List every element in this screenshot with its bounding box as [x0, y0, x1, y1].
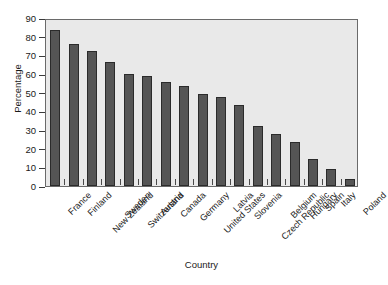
x-axis-tick	[322, 179, 323, 185]
plot-area	[45, 19, 358, 187]
x-axis-tick	[341, 179, 342, 185]
y-axis-tick-label: 40	[0, 107, 36, 117]
bar	[253, 126, 263, 186]
bar	[271, 134, 281, 186]
bar	[142, 76, 152, 186]
y-axis-tick-label: 10	[0, 163, 36, 173]
y-axis-tick-label: 30	[0, 126, 36, 136]
x-axis-tick	[304, 179, 305, 185]
y-axis-tick-label: 80	[0, 33, 36, 43]
x-axis-tick	[193, 179, 194, 185]
y-axis-tick-label: 70	[0, 51, 36, 61]
bar	[179, 86, 189, 186]
bar	[345, 179, 355, 186]
x-axis-title: Country	[45, 259, 358, 270]
x-axis-tick	[285, 179, 286, 185]
bar	[216, 97, 226, 186]
x-axis-tick	[230, 179, 231, 185]
y-axis-tick-label: 20	[0, 145, 36, 155]
x-axis-tick	[64, 179, 65, 185]
x-axis-label-wrapper: Sweden	[123, 190, 153, 220]
x-axis-tick	[120, 179, 121, 185]
bar	[326, 169, 336, 186]
x-axis-tick-label: Sweden	[123, 190, 153, 220]
x-axis-tick	[156, 179, 157, 185]
x-axis-label-wrapper: Poland	[361, 190, 388, 217]
x-axis-tick	[101, 179, 102, 185]
x-axis-tick-label: Poland	[361, 190, 388, 217]
x-axis-tick	[138, 179, 139, 185]
bar	[290, 142, 300, 186]
y-axis-tick-label: 90	[0, 14, 36, 24]
bar	[161, 82, 171, 186]
x-axis-tick	[212, 179, 213, 185]
bar	[234, 105, 244, 186]
bar	[87, 51, 97, 186]
bar	[50, 30, 60, 186]
x-axis-tick	[249, 179, 250, 185]
bar	[198, 94, 208, 186]
bar	[124, 74, 134, 186]
bar	[308, 159, 318, 186]
y-axis-tick-label: 0	[0, 182, 36, 192]
y-axis-tick-label: 50	[0, 89, 36, 99]
x-axis-tick	[175, 179, 176, 185]
x-axis-tick	[267, 179, 268, 185]
bars-layer	[46, 20, 357, 186]
x-axis-tick	[83, 179, 84, 185]
y-axis-tick-label: 60	[0, 70, 36, 80]
bar	[105, 62, 115, 186]
bar	[69, 44, 79, 186]
